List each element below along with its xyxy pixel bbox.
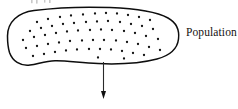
- sampling-unit-dot: [54, 51, 56, 53]
- sampling-unit-dot: [81, 39, 83, 41]
- sampling-unit-dot: [43, 53, 45, 55]
- sampling-unit-dot: [134, 32, 136, 34]
- sampling-unit-dot: [76, 48, 78, 50]
- sampling-unit-dot: [145, 35, 147, 37]
- sampling-unit-dot: [97, 56, 99, 58]
- sampling-unit-dot: [99, 48, 101, 50]
- sampling-unit-dot: [116, 12, 118, 14]
- sampling-unit-dot: [111, 29, 113, 31]
- sampling-unit-dot: [123, 30, 125, 32]
- sampling-unit-dot: [132, 52, 134, 54]
- sampling-unit-dot: [141, 25, 143, 27]
- sampling-unit-dot: [89, 29, 91, 31]
- sampling-unit-dot: [82, 13, 84, 15]
- sampling-unit-dot: [123, 57, 125, 59]
- sampling-unit-dot: [77, 29, 79, 31]
- sampling-unit-dot: [47, 18, 49, 20]
- sampling-unit-dot: [59, 16, 61, 18]
- sampling-unit-dot: [148, 46, 150, 48]
- sampling-unit-dot: [85, 21, 87, 23]
- sampling-unit-dot: [143, 54, 145, 56]
- sampling-unit-dot: [69, 40, 71, 42]
- sampling-unit-dot: [119, 21, 121, 23]
- sampling-unit-dot: [33, 36, 35, 38]
- sampling-unit-dot: [36, 45, 38, 47]
- sampling-unit-dot: [152, 28, 154, 30]
- sampling-unit-dot: [22, 39, 24, 41]
- figure-canvas: [0, 0, 238, 109]
- sampling-unit-dot: [47, 43, 49, 45]
- figure-population-sample: Population: [0, 0, 238, 109]
- sampling-unit-dot: [25, 47, 27, 49]
- sampling-unit-dot: [138, 16, 140, 18]
- sampling-unit-dot: [159, 49, 161, 51]
- sampling-unit-dot: [127, 14, 129, 16]
- sampling-unit-dot: [94, 12, 96, 14]
- sampling-unit-dot: [62, 23, 64, 25]
- sampling-unit-dot: [105, 12, 107, 14]
- sampling-unit-dot: [149, 19, 151, 21]
- sampling-unit-dot: [126, 41, 128, 43]
- sampling-unit-dot: [51, 25, 53, 27]
- sampling-unit-dot: [115, 39, 117, 41]
- sample-draw-arrow: [101, 62, 106, 99]
- sampling-unit-dot: [121, 50, 123, 52]
- sampling-unit-dot: [70, 14, 72, 16]
- sampling-unit-dot: [137, 43, 139, 45]
- sampling-unit-dot: [103, 39, 105, 41]
- sampling-unit-dot: [73, 22, 75, 24]
- sampling-unit-dot: [92, 39, 94, 41]
- sampling-unit-dot: [55, 32, 57, 34]
- sampling-unit-dot: [157, 38, 159, 40]
- sampling-unit-dot: [66, 30, 68, 32]
- sampling-unit-dot: [65, 49, 67, 51]
- sampling-unit-dot: [58, 41, 60, 43]
- sampling-unit-dot: [96, 20, 98, 22]
- sampling-unit-dot: [130, 23, 132, 25]
- sampling-unit-dot: [88, 48, 90, 50]
- sampling-unit-dot: [107, 20, 109, 22]
- sampling-unit-dot: [40, 27, 42, 29]
- sampling-unit-dot: [44, 34, 46, 36]
- population-label: Population: [186, 26, 237, 39]
- clipped-caption-fragment-icon: [31, 0, 51, 4]
- sampling-unit-dot: [100, 28, 102, 30]
- arrow-head-icon: [101, 91, 106, 99]
- sampling-unit-dot: [29, 30, 31, 32]
- sampling-unit-dot: [32, 55, 34, 57]
- sampling-unit-dot: [36, 21, 38, 23]
- sampling-unit-dot: [110, 48, 112, 50]
